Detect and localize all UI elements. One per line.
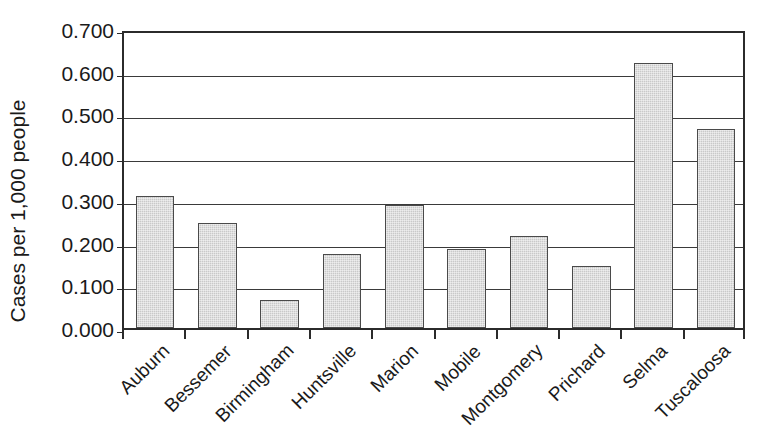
bars-layer xyxy=(124,33,743,328)
x-axis-tick-label: Mobile xyxy=(431,341,484,394)
bar-slot xyxy=(186,33,248,328)
y-axis-tick-mark xyxy=(117,247,124,248)
x-axis-tick-label: Selma xyxy=(619,341,671,393)
bar-slot xyxy=(622,33,684,328)
y-axis-title: Cases per 1,000 people xyxy=(4,61,31,361)
y-axis-tick-label: 0.400 xyxy=(30,148,114,169)
bar-slot xyxy=(560,33,622,328)
bar xyxy=(447,249,486,328)
plot-area xyxy=(122,31,745,330)
bar xyxy=(634,63,673,328)
y-axis-tick-mark xyxy=(117,204,124,205)
y-axis-tick-label: 0.100 xyxy=(30,276,114,297)
y-axis-tick-label: 0.300 xyxy=(30,191,114,212)
x-axis-tick-label: Auburn xyxy=(116,341,173,398)
y-axis-tick-label: 0.200 xyxy=(30,234,114,255)
bar-chart: Cases per 1,000 people 0.7000.6000.5000.… xyxy=(0,0,763,447)
bar xyxy=(510,236,549,328)
bar-slot xyxy=(249,33,311,328)
bar-slot xyxy=(311,33,373,328)
bar xyxy=(385,205,424,328)
y-axis-tick-label: 0.500 xyxy=(30,105,114,126)
bar-slot xyxy=(373,33,435,328)
bar-slot xyxy=(436,33,498,328)
bar xyxy=(323,254,362,328)
x-axis-tick-labels: AuburnBessemerBirminghamHuntsvilleMarion… xyxy=(122,330,763,447)
y-axis-tick-label: 0.700 xyxy=(30,20,114,41)
y-axis-tick-mark xyxy=(117,118,124,119)
bar xyxy=(260,300,299,328)
x-axis-tick-label: Prichard xyxy=(545,341,608,404)
bar-slot xyxy=(124,33,186,328)
y-axis-tick-label: 0.000 xyxy=(30,319,114,340)
y-axis-tick-mark xyxy=(117,289,124,290)
bar xyxy=(572,266,611,328)
y-axis-tick-labels: 0.7000.6000.5000.4000.3000.2000.1000.000 xyxy=(30,0,114,447)
bar xyxy=(136,196,175,328)
x-axis-tick-label: Marion xyxy=(367,341,422,396)
y-axis-tick-mark xyxy=(117,76,124,77)
bar xyxy=(697,129,736,328)
bar-slot xyxy=(685,33,747,328)
bar xyxy=(198,223,237,328)
bar-slot xyxy=(498,33,560,328)
y-axis-tick-label: 0.600 xyxy=(30,63,114,84)
y-axis-tick-mark xyxy=(117,33,124,34)
y-axis-tick-mark xyxy=(117,161,124,162)
x-axis-tick-label: Huntsville xyxy=(288,341,360,413)
